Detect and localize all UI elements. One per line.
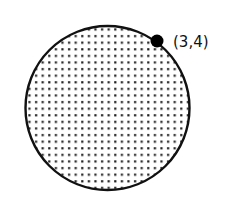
point-label: (3,4) bbox=[173, 33, 209, 51]
point-marker bbox=[151, 35, 164, 48]
diagram-canvas: (3,4) bbox=[0, 0, 232, 203]
shaded-disk bbox=[26, 26, 190, 190]
